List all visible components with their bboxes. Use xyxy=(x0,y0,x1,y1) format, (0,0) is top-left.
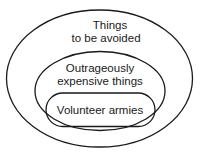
middle-label-line-1: Outrageously xyxy=(66,62,135,74)
inner-label: Volunteer armies xyxy=(57,104,144,116)
euler-diagram: Things to be avoided Outrageously expens… xyxy=(0,0,200,154)
middle-label-line-2: expensive things xyxy=(57,75,143,87)
outer-label-line-1: Things xyxy=(93,19,128,31)
outer-label-line-2: to be avoided xyxy=(71,32,140,44)
